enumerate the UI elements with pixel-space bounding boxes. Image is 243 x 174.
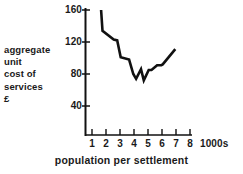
data-series-line [101, 10, 175, 80]
chart-plot-svg [0, 0, 243, 174]
x-tick-marks [92, 129, 190, 135]
chart-figure: aggregate unit cost of services £ 160 12… [0, 0, 243, 174]
x-axis-title: population per settlement [0, 154, 243, 166]
